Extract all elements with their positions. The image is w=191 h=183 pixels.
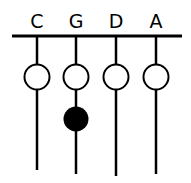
fingering-chart-svg: CGDA xyxy=(0,0,191,183)
open-string-circle-C xyxy=(25,65,50,90)
open-string-circle-A xyxy=(144,65,169,90)
finger-dot-G xyxy=(64,107,89,132)
string-label-D: D xyxy=(109,10,124,32)
open-string-circle-D xyxy=(104,65,129,90)
open-string-circle-G xyxy=(64,65,89,90)
string-label-C: C xyxy=(30,10,43,32)
string-label-G: G xyxy=(69,10,84,32)
string-label-A: A xyxy=(150,10,163,32)
fingering-diagram: CGDA xyxy=(0,0,191,183)
